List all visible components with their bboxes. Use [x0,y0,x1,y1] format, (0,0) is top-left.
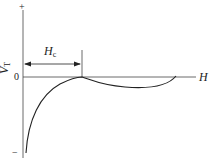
plot-canvas [0,0,212,160]
arrow-right-icon [74,62,81,67]
hc-label: Hc [44,45,56,59]
hc-label-sub: c [53,50,57,59]
vt-curve [26,76,176,153]
plus-sign: + [19,2,25,12]
zero-label: 0 [14,72,19,82]
minus-sign: − [12,148,18,158]
arrow-left-icon [24,62,31,67]
y-axis-label-main: V [0,67,11,74]
x-axis-label: H [199,71,208,83]
hc-label-main: H [44,44,53,58]
y-axis-label-sub: T [3,62,12,67]
y-axis-label: VT [0,62,12,74]
